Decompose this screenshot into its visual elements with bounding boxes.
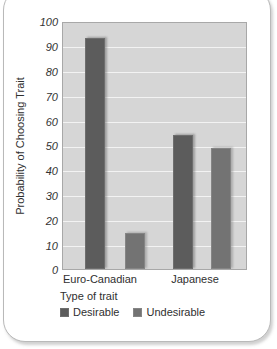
y-tick-50: 50 <box>26 141 58 152</box>
y-tick-100: 100 <box>26 17 58 28</box>
y-tick-90: 90 <box>26 42 58 53</box>
y-axis-ticks: 100 90 80 70 60 50 40 30 20 10 0 <box>24 0 58 349</box>
legend-title: Type of trait <box>60 290 260 302</box>
plot-area <box>62 22 247 270</box>
legend-entry-desirable: Desirable <box>60 306 119 318</box>
legend-items: Desirable Undesirable <box>60 306 260 318</box>
legend-entry-undesirable: Undesirable <box>133 306 205 318</box>
bar-japanese-desirable <box>173 135 193 269</box>
desirable-swatch-icon <box>60 308 69 317</box>
y-tick-20: 20 <box>26 216 58 227</box>
chart-legend: Type of trait Desirable Undesirable <box>60 290 260 318</box>
y-tick-80: 80 <box>26 67 58 78</box>
legend-label-undesirable: Undesirable <box>146 306 205 318</box>
x-tick-japanese: Japanese <box>155 273 235 285</box>
bar-euro-canadian-undesirable <box>125 233 145 269</box>
y-tick-40: 40 <box>26 166 58 177</box>
y-tick-60: 60 <box>26 117 58 128</box>
x-tick-euro-canadian: Euro-Canadian <box>55 273 145 285</box>
y-tick-0: 0 <box>26 265 58 276</box>
bar-japanese-undesirable <box>211 148 231 269</box>
y-tick-10: 10 <box>26 241 58 252</box>
undesirable-swatch-icon <box>133 308 142 317</box>
legend-label-desirable: Desirable <box>73 306 119 318</box>
y-tick-30: 30 <box>26 191 58 202</box>
y-tick-70: 70 <box>26 92 58 103</box>
bar-chart: Probability of Choosing Trait 100 90 80 … <box>0 0 277 349</box>
bar-euro-canadian-desirable <box>85 38 105 269</box>
